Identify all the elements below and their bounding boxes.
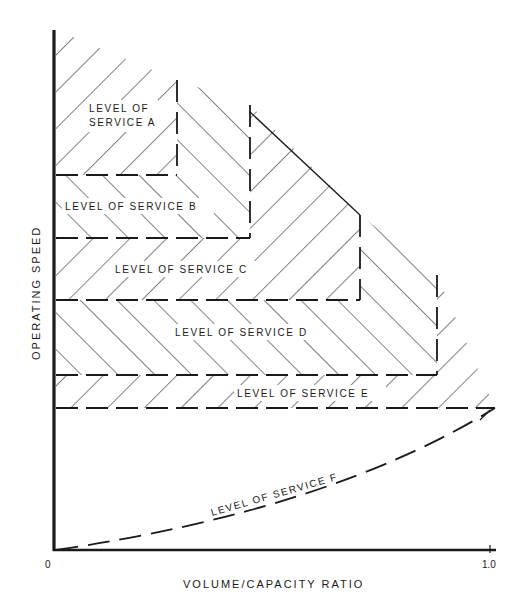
region-a-label-line2: SERVICE A — [89, 117, 156, 128]
level-of-service-diagram: LEVEL OF SERVICE A LEVEL OF SERVICE B LE… — [0, 0, 530, 612]
x-axis-label: VOLUME/CAPACITY RATIO — [183, 578, 364, 590]
region-a-label-line1: LEVEL OF — [89, 103, 149, 114]
x-tick-label-zero: 0 — [45, 559, 51, 570]
x-tick-label-one: 1.0 — [482, 559, 496, 570]
region-d-label: LEVEL OF SERVICE D — [175, 327, 308, 338]
region-f-label: LEVEL OF SERVICE F — [210, 471, 340, 518]
region-c-label: LEVEL OF SERVICE C — [115, 264, 248, 275]
level-f-curve — [56, 408, 495, 550]
region-e-label: LEVEL OF SERVICE E — [237, 388, 369, 399]
y-axis-label: OPERATING SPEED — [30, 226, 42, 360]
region-b-label: LEVEL OF SERVICE B — [65, 201, 197, 212]
